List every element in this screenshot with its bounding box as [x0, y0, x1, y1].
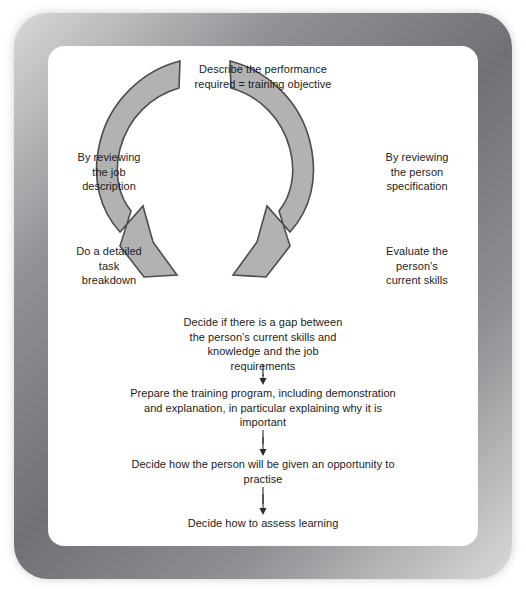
node-opportunity-to-practise: Decide how the person will be given an o…: [111, 457, 415, 486]
diagram-page: Describe the performance required = trai…: [0, 0, 526, 593]
node-by-reviewing-job-description: By reviewing the job description: [50, 150, 168, 194]
node-task-breakdown: Do a detailed task breakdown: [50, 244, 168, 288]
node-prepare-training-program: Prepare the training program, including …: [86, 386, 440, 430]
node-evaluate-current-skills: Evaluate the person’s current skills: [356, 244, 478, 288]
node-training-objective: Describe the performance required = trai…: [133, 62, 393, 91]
node-assess-learning: Decide how to assess learning: [146, 516, 380, 531]
node-by-reviewing-person-specification: By reviewing the person specification: [356, 150, 478, 194]
curved-arrow-right: [230, 61, 313, 277]
node-decide-gap: Decide if there is a gap between the per…: [131, 315, 395, 373]
diagram-canvas: Describe the performance required = trai…: [48, 46, 478, 546]
